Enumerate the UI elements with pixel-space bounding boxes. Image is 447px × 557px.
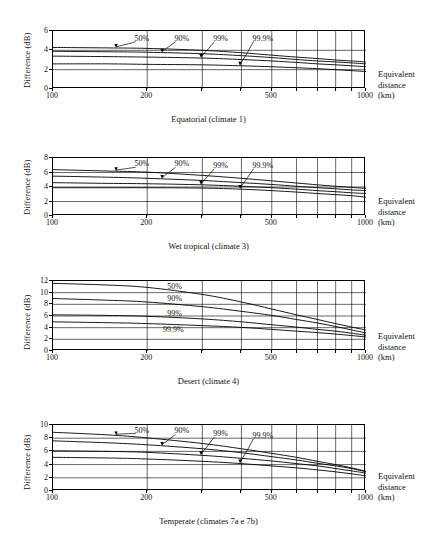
x-axis-tick-mark (271, 350, 272, 353)
y-axis-tick-mark (49, 172, 52, 173)
x-axis-tick-mark (335, 88, 336, 91)
series-label-99-9%: 99.9% (252, 431, 273, 440)
x-axis-title-right: Equivalentdistance(km) (378, 196, 415, 228)
annotation-leader-line (116, 434, 136, 435)
x-axis-tick-label: 200 (140, 218, 152, 227)
x-axis-title-line: (km) (378, 352, 415, 363)
y-axis-tick-mark (49, 280, 52, 281)
x-axis-tick-mark (146, 215, 147, 218)
x-axis-tick-mark (240, 350, 241, 353)
x-axis-tick-label: 1000 (357, 353, 373, 362)
x-axis-tick-mark (146, 88, 147, 91)
y-axis-tick-mark (49, 450, 52, 451)
x-axis-title-right: Equivalentdistance(km) (378, 69, 415, 101)
y-axis-tick-mark (49, 477, 52, 478)
y-axis-tick-label: 2 (30, 196, 48, 205)
x-axis-title-line: distance (378, 207, 415, 218)
x-axis-title-line: distance (378, 482, 415, 493)
x-axis-tick-mark (201, 490, 202, 493)
x-axis-tick-mark (317, 88, 318, 91)
y-axis-tick-label: 2 (30, 64, 48, 73)
x-axis-tick-mark (365, 350, 366, 353)
x-axis-title-line: (km) (378, 492, 415, 503)
y-axis-tick-label: 4 (30, 322, 48, 331)
series-label-90%: 90% (174, 159, 189, 168)
x-axis-tick-mark (146, 490, 147, 493)
series-curve (53, 64, 366, 72)
y-axis-tick-label: 4 (30, 459, 48, 468)
chart-caption-2: Wet tropical (climate 3) (168, 241, 249, 251)
annotation-leader-line (116, 42, 136, 47)
y-axis-tick-label: 6 (30, 167, 48, 176)
y-axis-tick-mark (49, 69, 52, 70)
x-axis-tick-mark (271, 490, 272, 493)
y-axis-tick-mark (49, 315, 52, 316)
x-axis-tick-label: 200 (140, 493, 152, 502)
series-curve (53, 457, 366, 475)
series-label-99%: 99% (167, 309, 182, 318)
chart-caption-4: Temperate (climates 7a e 7b) (159, 516, 258, 526)
x-axis-tick-label: 500 (265, 493, 277, 502)
y-axis-tick-mark (49, 30, 52, 31)
x-axis-title-right: Equivalentdistance(km) (378, 471, 415, 503)
chart-caption-1: Equatorial (climate 1) (171, 114, 246, 124)
y-axis-tick-mark (49, 338, 52, 339)
annotation-leader-line (162, 42, 175, 52)
x-axis-tick-mark (335, 215, 336, 218)
y-axis-tick-label: 4 (30, 182, 48, 191)
y-axis-tick-mark (49, 464, 52, 465)
series-curve (53, 441, 366, 472)
series-curve (53, 47, 366, 62)
x-axis-tick-mark (335, 350, 336, 353)
y-axis-tick-label: 4 (30, 45, 48, 54)
x-axis-tick-mark (296, 490, 297, 493)
y-axis-tick-mark (49, 201, 52, 202)
x-axis-title-right: Equivalentdistance(km) (378, 331, 415, 363)
series-label-99%: 99% (213, 161, 228, 170)
x-axis-tick-label: 500 (265, 353, 277, 362)
y-axis-tick-mark (49, 327, 52, 328)
x-axis-tick-mark (240, 215, 241, 218)
x-axis-tick-mark (146, 350, 147, 353)
y-axis-tick-label: 8 (30, 153, 48, 162)
x-axis-tick-mark (52, 350, 53, 353)
x-axis-tick-label: 200 (140, 91, 152, 100)
plot-area-3 (52, 280, 365, 350)
y-axis-tick-mark (49, 157, 52, 158)
y-axis-tick-label: 2 (30, 334, 48, 343)
x-axis-tick-mark (201, 215, 202, 218)
y-axis-tick-label: 6 (30, 311, 48, 320)
series-label-50%: 50% (135, 159, 150, 168)
x-axis-title-line: Equivalent (378, 69, 415, 80)
x-axis-tick-label: 1000 (357, 91, 373, 100)
x-axis-title-line: (km) (378, 217, 415, 228)
series-label-99-9%: 99.9% (252, 161, 273, 170)
x-axis-tick-label: 100 (46, 493, 58, 502)
y-axis-tick-label: 12 (30, 276, 48, 285)
x-axis-tick-mark (271, 88, 272, 91)
y-axis-tick-mark (49, 303, 52, 304)
x-axis-tick-mark (365, 88, 366, 91)
annotation-arrowhead (114, 167, 118, 171)
x-axis-tick-label: 500 (265, 91, 277, 100)
annotation-leader-line (116, 167, 136, 170)
plot-area-2 (52, 157, 365, 215)
x-axis-tick-mark (296, 88, 297, 91)
x-axis-title-line: (km) (378, 90, 415, 101)
chart-caption-3: Desert (climate 4) (178, 376, 239, 386)
y-axis-tick-label: 10 (30, 420, 48, 429)
y-axis-tick-label: 10 (30, 287, 48, 296)
x-axis-tick-mark (296, 215, 297, 218)
series-label-50%: 50% (135, 34, 150, 43)
x-axis-tick-label: 100 (46, 353, 58, 362)
x-axis-tick-label: 500 (265, 218, 277, 227)
y-axis-tick-label: 8 (30, 299, 48, 308)
x-axis-title-line: distance (378, 342, 415, 353)
y-axis-title: Difference (dB) (22, 33, 32, 88)
series-label-90%: 90% (167, 294, 182, 303)
x-axis-tick-mark (335, 490, 336, 493)
x-axis-tick-mark (317, 215, 318, 218)
series-label-90%: 90% (174, 426, 189, 435)
x-axis-tick-mark (317, 490, 318, 493)
x-axis-tick-label: 1000 (357, 493, 373, 502)
